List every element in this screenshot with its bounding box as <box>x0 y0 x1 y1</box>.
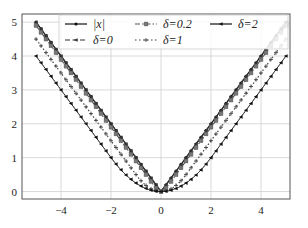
x-tick-label: −4 <box>55 204 67 216</box>
x-axis: −4−2024 <box>55 204 264 216</box>
y-tick-label: 3 <box>12 84 18 96</box>
y-tick-label: 2 <box>12 118 18 130</box>
legend-label: δ=0.2 <box>163 17 192 31</box>
x-tick-label: 2 <box>208 204 214 216</box>
legend: |x|δ=0δ=0.2δ=1δ=2 <box>59 15 288 49</box>
y-tick-label: 0 <box>12 186 18 198</box>
huber-chart: −4−2024 012345 |x|δ=0δ=0.2δ=1δ=2 <box>0 0 308 228</box>
x-tick-label: 4 <box>258 204 264 216</box>
x-tick-label: 0 <box>158 204 164 216</box>
x-tick-label: −2 <box>105 204 117 216</box>
legend-label: |x| <box>93 17 105 31</box>
legend-label: δ=1 <box>163 33 183 47</box>
y-axis: 012345 <box>12 16 18 197</box>
y-tick-label: 5 <box>12 16 18 28</box>
legend-label: δ=2 <box>238 17 258 31</box>
y-tick-label: 1 <box>12 152 18 164</box>
chart-container: −4−2024 012345 |x|δ=0δ=0.2δ=1δ=2 <box>0 0 308 228</box>
legend-label: δ=0 <box>93 33 113 47</box>
y-tick-label: 4 <box>12 50 18 62</box>
